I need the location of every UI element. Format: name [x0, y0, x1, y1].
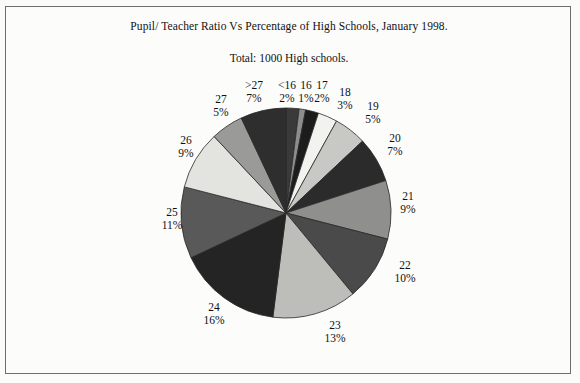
figure-page: Pupil/ Teacher Ratio Vs Percentage of Hi… [0, 0, 580, 383]
pie-label-category: 19 [362, 100, 384, 113]
pie-label-22: 22 10% [391, 259, 419, 284]
pie-label-percent: 13% [321, 332, 349, 345]
pie-label-percent: 9% [174, 147, 198, 160]
pie-label-percent: 2% [311, 92, 333, 105]
pie-plot-area: <16 2% 16 1% 17 2% 18 3% 19 5% 20 7% [6, 7, 572, 375]
figure-frame: Pupil/ Teacher Ratio Vs Percentage of Hi… [5, 6, 571, 374]
pie-label-17: 17 2% [311, 79, 333, 104]
pie-label-19: 19 5% [362, 100, 384, 125]
pie-label-percent: 5% [362, 113, 384, 126]
pie-chart [179, 106, 393, 320]
pie-label-category: 26 [174, 134, 198, 147]
pie-label-category: 24 [200, 301, 228, 314]
pie-label-25: 25 11% [158, 206, 186, 231]
pie-label-category: 27 [209, 93, 233, 106]
pie-label-percent: 7% [240, 92, 268, 105]
pie-label-percent: 9% [397, 203, 419, 216]
pie-label-percent: 3% [334, 99, 356, 112]
pie-label-category: 22 [391, 259, 419, 272]
pie-label-percent: 11% [158, 219, 186, 232]
pie-label-20: 20 7% [384, 132, 406, 157]
pie-label-category: 25 [158, 206, 186, 219]
pie-label-category: 18 [334, 86, 356, 99]
pie-label-category: >27 [240, 79, 268, 92]
pie-label-category: 23 [321, 319, 349, 332]
pie-label-gt27: >27 7% [240, 79, 268, 104]
pie-label-18: 18 3% [334, 86, 356, 111]
pie-label-category: 21 [397, 190, 419, 203]
pie-label-24: 24 16% [200, 301, 228, 326]
pie-label-27: 27 5% [209, 93, 233, 118]
pie-label-percent: 10% [391, 272, 419, 285]
pie-label-percent: 16% [200, 314, 228, 327]
pie-label-23: 23 13% [321, 319, 349, 344]
pie-label-21: 21 9% [397, 190, 419, 215]
pie-label-category: 17 [311, 79, 333, 92]
pie-slices [181, 108, 391, 318]
pie-label-category: 20 [384, 132, 406, 145]
pie-label-26: 26 9% [174, 134, 198, 159]
pie-label-percent: 5% [209, 106, 233, 119]
pie-label-percent: 7% [384, 145, 406, 158]
